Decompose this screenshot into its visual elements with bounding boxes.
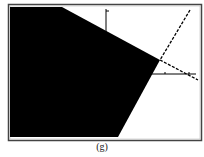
calculator-graph	[0, 0, 204, 142]
figure-caption: (g)	[0, 141, 204, 152]
